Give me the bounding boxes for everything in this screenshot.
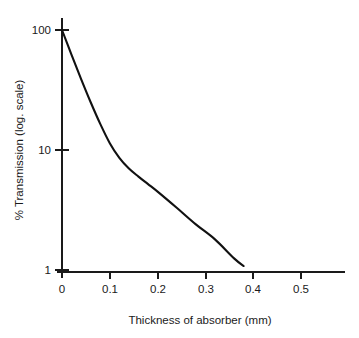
y-tick-label-100: 100 (32, 24, 51, 36)
x-tick-label-0p2: 0.2 (150, 283, 166, 295)
x-tick-label-0: 0 (59, 283, 65, 295)
x-tick-label-0p5: 0.5 (293, 283, 309, 295)
transmission-vs-thickness-chart: 100 10 1 0 0.1 0.2 0.3 0.4 0.5 Thickness… (0, 0, 359, 338)
x-tick-label-0p4: 0.4 (245, 283, 262, 295)
x-axis-title: Thickness of absorber (mm) (128, 314, 271, 326)
chart-figure: 100 10 1 0 0.1 0.2 0.3 0.4 0.5 Thickness… (0, 0, 359, 338)
y-tick-label-1: 1 (45, 264, 51, 276)
y-tick-label-10: 10 (38, 144, 51, 156)
y-axis-title: % Transmission (log. scale) (13, 80, 25, 221)
x-tick-label-0p1: 0.1 (102, 283, 118, 295)
x-tick-label-0p3: 0.3 (198, 283, 214, 295)
